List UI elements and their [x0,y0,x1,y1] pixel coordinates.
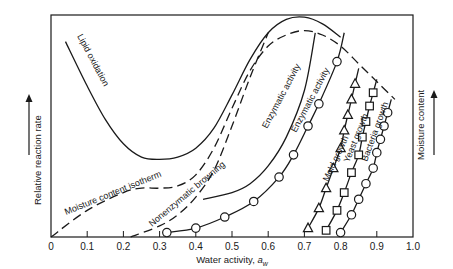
x-tick-label: 0.4 [189,241,203,252]
y-axis-title-left: Relative reaction rate [32,115,43,205]
triangle-marker [340,125,349,134]
circle-marker [163,228,171,236]
square-marker [366,102,374,110]
x-axis-title: Water activity, aw [196,254,269,267]
circle-marker [362,180,370,188]
arrow-up-icon [431,90,438,155]
triangle-marker [303,223,312,232]
triangle-marker [314,203,323,212]
x-axis-ticks [87,231,377,237]
triangle-marker [350,79,359,88]
y-axis-title-right: Moisture content [415,89,426,160]
circle-marker [250,197,258,205]
x-tick-label: 0.1 [80,241,94,252]
square-marker [369,89,377,97]
x-tick-label: 0.5 [225,241,239,252]
curve-lipid-oxidation [65,17,340,159]
x-tick-label: 0 [48,241,54,252]
square-marker [333,207,341,215]
x-tick-label: 0.8 [334,241,348,252]
circle-marker [221,213,229,221]
x-tick-label: 0.2 [116,241,130,252]
circle-marker [192,224,200,232]
x-axis-tick-labels: 00.10.20.30.40.50.60.70.80.91.0 [48,241,420,252]
circle-marker [336,228,344,236]
circle-marker [369,164,377,172]
circle-marker [315,100,323,108]
x-tick-label: 0.3 [153,241,167,252]
circle-marker [347,211,355,219]
circle-marker [275,173,283,181]
x-tick-label: 0.7 [297,241,311,252]
label-moisture-isotherm: Moisture content isotherm [63,169,163,217]
square-marker [348,169,356,177]
circle-marker [289,151,297,159]
x-tick-label: 1.0 [406,241,420,252]
x-tick-label: 0.9 [370,241,384,252]
x-tick-label: 0.6 [261,241,275,252]
water-activity-chart: 00.10.20.30.40.50.60.70.80.91.0 Water ac… [0,0,453,269]
triangle-marker [347,94,356,103]
square-marker [340,189,348,197]
circle-marker [333,57,341,65]
square-marker [322,227,330,235]
triangle-marker [322,183,331,192]
label-lipid-oxidation: Lipid oxidation [75,32,111,88]
circle-marker [304,122,312,130]
triangle-marker [343,110,352,119]
circle-marker [355,195,363,203]
circle-marker [373,148,381,156]
